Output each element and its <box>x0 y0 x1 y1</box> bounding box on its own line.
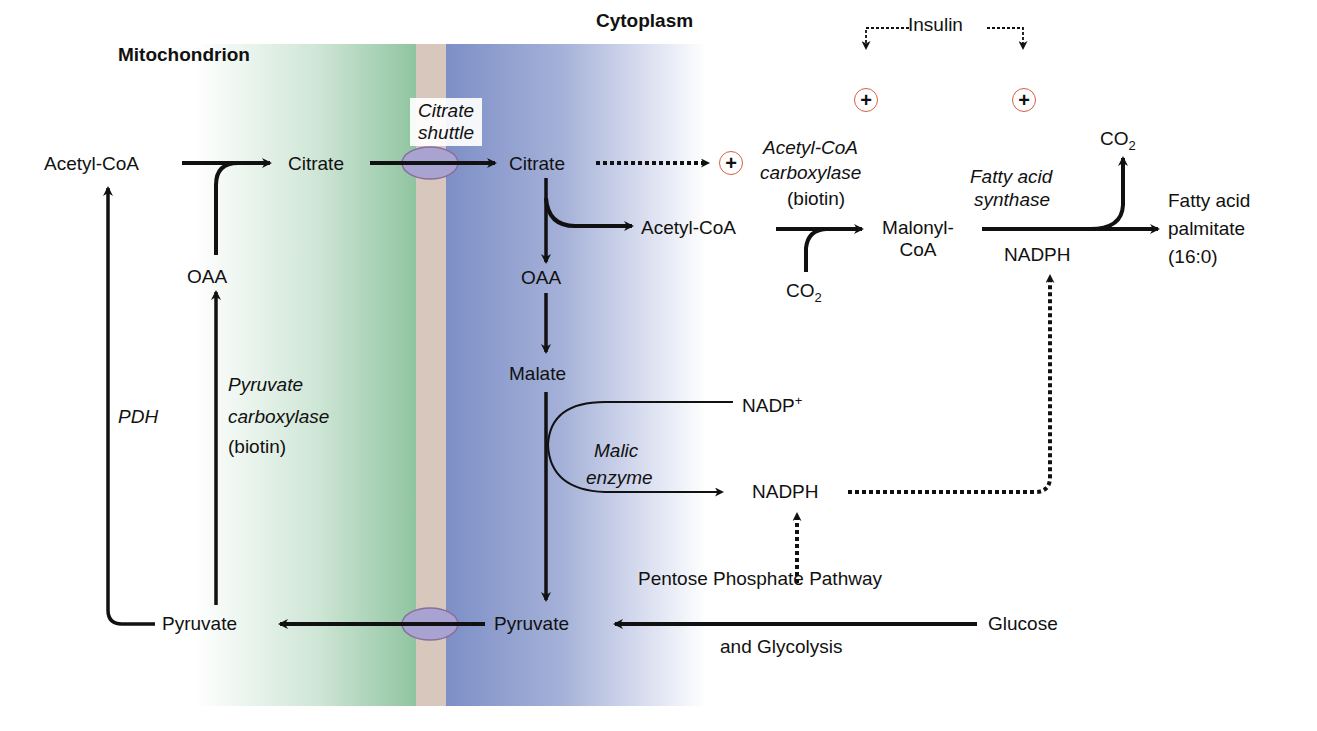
malonyl-coa: Malonyl- CoA <box>872 217 964 261</box>
co2-input: CO2 <box>786 280 822 309</box>
citrate-activation-icon: + <box>719 151 743 175</box>
pyruvate-carboxylase-1: Pyruvate <box>228 374 303 396</box>
malonyl-line2: CoA <box>872 239 964 261</box>
mito-pyruvate: Pyruvate <box>162 613 237 635</box>
insulin-activation-fas-icon: + <box>1012 88 1036 112</box>
malic-enzyme-2: enzyme <box>586 467 653 489</box>
pdh-enzyme: PDH <box>118 406 158 428</box>
acc-cofactor: (biotin) <box>787 188 845 210</box>
pyruvate-carboxylase-2: carboxylase <box>228 406 329 428</box>
malic-nadph: NADPH <box>752 481 819 503</box>
acc-enzyme-2: carboxylase <box>760 162 861 184</box>
shuttle-line2: shuttle <box>412 122 480 144</box>
insulin-activation-acc-icon: + <box>854 88 878 112</box>
malic-enzyme-1: Malic <box>594 440 638 462</box>
mitochondrion-header: Mitochondrion <box>118 44 250 66</box>
cytoplasm-header: Cytoplasm <box>596 10 693 32</box>
mito-citrate: Citrate <box>288 153 344 175</box>
mito-acetyl-coa: Acetyl-CoA <box>44 153 139 175</box>
cyto-citrate: Citrate <box>509 153 565 175</box>
cyto-malate: Malate <box>509 363 566 385</box>
citrate-shuttle-label: Citrate shuttle <box>410 98 482 146</box>
shuttle-line1: Citrate <box>412 100 480 122</box>
product-2: palmitate <box>1168 218 1245 240</box>
co2-out-subscript: 2 <box>1129 138 1136 153</box>
cyto-acetyl-coa: Acetyl-CoA <box>641 217 736 239</box>
co2-subscript: 2 <box>815 290 822 305</box>
product-3: (16:0) <box>1168 246 1218 268</box>
nadp-plus: NADP+ <box>742 390 802 417</box>
nadp-text: NADP <box>742 395 795 416</box>
malonyl-line1: Malonyl- <box>872 217 964 239</box>
co2-output: CO2 <box>1100 128 1136 157</box>
product-1: Fatty acid <box>1168 190 1250 212</box>
cyto-pyruvate: Pyruvate <box>494 613 569 635</box>
insulin-label: Insulin <box>908 14 963 36</box>
ppp-label-2: and Glycolysis <box>720 636 843 658</box>
glucose: Glucose <box>988 613 1058 635</box>
fas-enzyme-1: Fatty acid <box>970 166 1052 188</box>
co2-text: CO <box>786 280 815 301</box>
ppp-label-1: Pentose Phosphate Pathway <box>638 568 882 590</box>
nadp-charge: + <box>795 393 803 408</box>
co2-out-text: CO <box>1100 128 1129 149</box>
cyto-oaa: OAA <box>521 267 561 289</box>
pyruvate-carboxylase-cofactor: (biotin) <box>228 436 286 458</box>
fas-enzyme-2: synthase <box>974 189 1050 211</box>
mito-oaa: OAA <box>187 266 227 288</box>
acc-enzyme-1: Acetyl-CoA <box>763 137 858 159</box>
fas-nadph: NADPH <box>1004 244 1071 266</box>
